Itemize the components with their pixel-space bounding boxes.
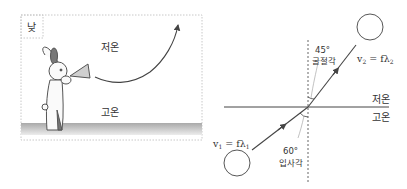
daytime-sound-svg: 낮 저온 고온	[0, 0, 210, 189]
lower-medium-label: 고온	[372, 112, 390, 123]
refraction-angle-label: 굴절각	[312, 56, 336, 66]
incidence-leader	[298, 116, 304, 138]
incidence-angle-label: 입사각	[279, 158, 303, 168]
refraction-angle-value: 45°	[315, 45, 330, 55]
sound-path-arrow	[95, 25, 178, 82]
upper-medium-label: 저온	[372, 94, 390, 105]
wavefront-circle-bottom	[224, 150, 250, 176]
rabbit-icon	[42, 47, 90, 130]
high-temp-label: 고온	[101, 107, 119, 118]
incident-arrow	[278, 125, 284, 130]
refraction-leader	[311, 63, 318, 98]
refracted-arrow	[333, 70, 337, 75]
v2-equation: v2 = fλ2	[356, 53, 394, 65]
incidence-angle-value: 60°	[283, 146, 298, 156]
refraction-diagram: 45° 굴절각 60° 입사각 저온 고온 v1 = fλ1 v2 = fλ2	[210, 0, 407, 189]
time-label: 낮	[27, 22, 36, 33]
daytime-sound-diagram: 낮 저온 고온	[0, 0, 210, 189]
wavefront-circle-top	[357, 14, 383, 40]
refraction-svg: 45° 굴절각 60° 입사각 저온 고온 v1 = fλ1 v2 = fλ2	[210, 0, 407, 189]
v1-equation: v1 = fλ1	[212, 138, 250, 150]
low-temp-label: 저온	[101, 42, 119, 53]
